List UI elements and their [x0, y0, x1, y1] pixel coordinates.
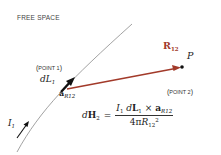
num-a-sub: R12 [161, 108, 172, 114]
a-sub: R12 [64, 93, 75, 99]
dl1-label: dL1 [40, 74, 55, 85]
paren: ) [191, 88, 193, 95]
equation-fraction: I1 dL1 × aR12 4πR122 [115, 103, 173, 128]
r-text: R [163, 40, 171, 51]
dl-text: dL [40, 74, 52, 84]
diagram-graphics [0, 0, 221, 155]
point-p-label: P [187, 50, 193, 61]
biot-savart-diagram: FREE SPACE (POINT 1) dL1 aR12 R12 P (POI… [0, 0, 221, 155]
i1-arrow-line [17, 124, 27, 138]
i-sub: 1 [12, 123, 16, 129]
lhs-h: H [88, 110, 97, 120]
equals-sign: = [104, 111, 112, 121]
num-i-sub: 1 [120, 108, 124, 114]
unit-vector-label: aR12 [59, 88, 75, 99]
paren: ) [60, 64, 62, 71]
den-exp: 2 [155, 117, 159, 123]
dl-sub: 1 [52, 79, 56, 85]
biot-savart-equation: dH2 = I1 dL1 × aR12 4πR122 [82, 103, 173, 128]
i1-arrowhead [24, 121, 30, 127]
point-2-text: POINT 2 [169, 89, 190, 95]
point-1-text: POINT 1 [38, 65, 59, 71]
point-2-label: (POINT 2) [167, 88, 193, 95]
cross-sign: × [145, 103, 153, 113]
current-i1-label: I1 [8, 118, 15, 129]
num-l-sub: 1 [138, 108, 142, 114]
point-p-dot [180, 65, 184, 69]
den-coef: 4π [130, 117, 142, 127]
r12-vector-line [67, 68, 178, 89]
lhs-sub: 2 [96, 115, 100, 121]
free-space-label: FREE SPACE [17, 14, 60, 21]
r12-arrowhead [172, 65, 181, 71]
r-sub: 12 [171, 46, 179, 52]
point-1-label: (POINT 1) [36, 64, 62, 71]
r12-label: R12 [163, 40, 179, 52]
equation-lhs: dH2 [82, 110, 100, 121]
numerator: I1 dL1 × aR12 [115, 103, 173, 116]
denominator: 4πR122 [130, 116, 159, 128]
